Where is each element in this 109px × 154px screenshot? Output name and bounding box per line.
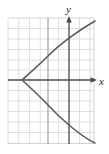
- parabola-figure: y x: [0, 0, 109, 154]
- y-axis-arrow-icon: [66, 16, 72, 23]
- x-axis-label: x: [98, 75, 104, 87]
- y-axis-label: y: [65, 3, 71, 15]
- grid-minor-lines: [8, 18, 94, 144]
- plot-canvas: y x: [0, 0, 109, 154]
